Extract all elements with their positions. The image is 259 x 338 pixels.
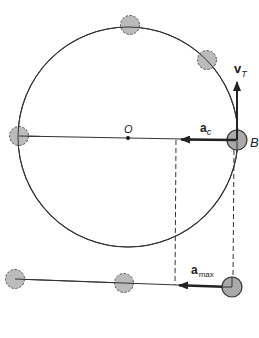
centripetal-accel-vector <box>181 140 236 141</box>
max-accel-label-main: a <box>191 263 198 277</box>
projection-line-ac <box>175 140 176 285</box>
centripetal-accel-label-sub: c <box>207 127 212 137</box>
point-b-label: B <box>250 135 259 150</box>
velocity-label: vT <box>234 61 248 79</box>
ball-top <box>121 16 140 35</box>
velocity-label-sub: T <box>241 69 248 79</box>
max-accel-label-sub: max <box>199 270 214 279</box>
center-point <box>126 136 130 140</box>
center-label: O <box>124 123 133 135</box>
max-accel-label: amax <box>191 263 214 279</box>
centripetal-accel-label: ac <box>200 121 212 137</box>
circular-motion-diagram: O B vT ac amax <box>0 0 259 338</box>
